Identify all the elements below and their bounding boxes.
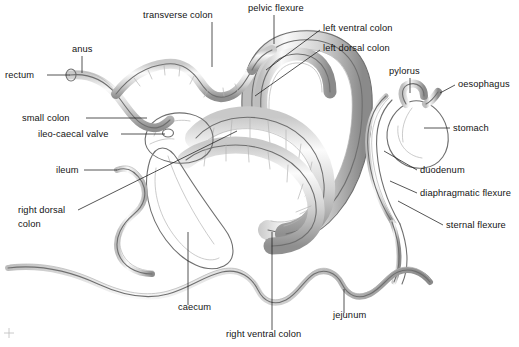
label-anus: anus: [72, 44, 93, 54]
leader-oesophagus: [440, 85, 455, 93]
leader-diaphragmatic-flexure: [390, 181, 417, 193]
registration-mark: [4, 328, 14, 338]
label-right-ventral-colon: right ventral colon: [226, 329, 301, 339]
leader-sternal-flexure: [398, 201, 443, 225]
label-left-dorsal-colon: left dorsal colon: [323, 43, 390, 53]
jejunum-loop: [8, 264, 430, 303]
label-oesophagus: oesophagus: [458, 79, 510, 89]
label-ileo-caecal-valve: ileo-caecal valve: [38, 129, 108, 139]
label-pylorus: pylorus: [389, 66, 420, 76]
label-caecum: caecum: [178, 302, 211, 312]
label-rectum: rectum: [5, 70, 34, 80]
label-small-colon: small colon: [22, 113, 70, 123]
stomach-group: [387, 84, 448, 169]
leader-right-dorsal-colon: [78, 131, 237, 210]
label-right-dorsal-colon-1: right dorsal: [18, 205, 65, 215]
label-duodenum: duodenum: [420, 165, 465, 175]
label-left-ventral-colon: left ventral colon: [323, 23, 393, 33]
label-transverse-colon: transverse colon: [143, 10, 213, 20]
leader-duodenum: [384, 151, 417, 170]
equine-digestive-tract-figure: transverse colonpelvic flexureleft ventr…: [0, 0, 519, 347]
label-diaphragmatic-flexure: diaphragmatic flexure: [420, 188, 511, 198]
label-pelvic-flexure: pelvic flexure: [248, 3, 304, 13]
label-ileum: ileum: [56, 165, 79, 175]
label-jejunum: jejunum: [332, 310, 366, 320]
label-stomach: stomach: [453, 123, 489, 133]
label-sternal-flexure: sternal flexure: [446, 220, 506, 230]
duodenum-strands: [368, 96, 407, 284]
label-right-dorsal-colon-2: colon: [18, 219, 41, 229]
